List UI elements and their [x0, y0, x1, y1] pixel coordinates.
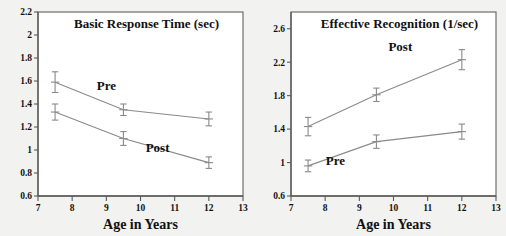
series-label-pre: Pre [326, 153, 345, 168]
y-tick-label-1.6: 1.6 [20, 76, 32, 86]
y-tick-label-2.2: 2.2 [20, 7, 32, 17]
y-tick-label-1.4: 1.4 [20, 99, 32, 109]
y-tick-label-1.8: 1.8 [20, 53, 32, 63]
x-tick-label-12: 12 [204, 203, 214, 213]
x-tick-label-8: 8 [70, 203, 75, 213]
x-tick-label-7: 7 [289, 203, 294, 213]
x-tick-label-11: 11 [423, 203, 432, 213]
plot-frame [38, 12, 243, 196]
series-label-pre: Pre [97, 78, 116, 93]
chart-svg-right: 0.611.41.82.22.678910111213Effective Rec… [253, 0, 506, 236]
x-tick-label-13: 13 [238, 203, 248, 213]
y-tick-label-1.8: 1.8 [273, 91, 285, 101]
x-tick-label-10: 10 [136, 203, 146, 213]
x-tick-label-11: 11 [170, 203, 179, 213]
y-tick-label-1.4: 1.4 [273, 124, 285, 134]
x-tick-label-8: 8 [323, 203, 328, 213]
x-tick-label-9: 9 [357, 203, 362, 213]
x-tick-label-13: 13 [491, 203, 501, 213]
x-tick-label-10: 10 [389, 203, 399, 213]
x-tick-label-7: 7 [36, 203, 41, 213]
chart-title: Basic Response Time (sec) [74, 16, 219, 31]
x-axis-title: Age in Years [103, 217, 178, 232]
figure-root: 0.60.811.21.41.61.822.278910111213Basic … [0, 0, 506, 236]
y-tick-label-2.2: 2.2 [273, 58, 285, 68]
chart-svg-left: 0.60.811.21.41.61.822.278910111213Basic … [0, 0, 253, 236]
y-tick-label-1: 1 [280, 158, 285, 168]
x-tick-label-9: 9 [104, 203, 109, 213]
x-tick-label-12: 12 [457, 203, 467, 213]
y-tick-label-2: 2 [27, 30, 32, 40]
x-axis-title: Age in Years [356, 217, 431, 232]
y-tick-label-1.2: 1.2 [20, 122, 32, 132]
series-label-post: Post [388, 39, 413, 54]
chart-title: Effective Recognition (1/sec) [321, 16, 478, 31]
y-tick-label-0.8: 0.8 [20, 168, 32, 178]
y-tick-label-1: 1 [27, 145, 32, 155]
series-label-post: Post [146, 140, 171, 155]
y-tick-label-2.6: 2.6 [273, 24, 285, 34]
chart-panel-effective-recognition: 0.611.41.82.22.678910111213Effective Rec… [253, 0, 506, 236]
chart-panel-basic-response-time: 0.60.811.21.41.61.822.278910111213Basic … [0, 0, 253, 236]
y-tick-label-0.6: 0.6 [20, 191, 32, 201]
y-tick-label-0.6: 0.6 [273, 191, 285, 201]
